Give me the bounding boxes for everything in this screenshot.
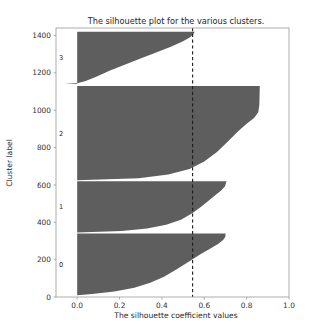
x-axis-ticks: 0.00.20.40.60.81.0	[71, 297, 295, 310]
x-tick-label: 0.2	[114, 301, 126, 310]
y-axis-label: Cluster label	[5, 139, 14, 187]
y-tick-label: 400	[37, 218, 51, 227]
y-tick-label: 1200	[32, 68, 51, 77]
x-axis-label: The silhouette coefficient values	[113, 311, 237, 320]
cluster-label-2: 2	[59, 130, 63, 138]
y-tick-label: 1000	[32, 106, 51, 115]
x-tick-label: 0.8	[241, 301, 253, 310]
y-tick-label: 800	[37, 143, 51, 152]
x-tick-label: 0.4	[156, 301, 168, 310]
y-axis-ticks: 0200400600800100012001400	[32, 31, 56, 302]
page-title: The silhouette plot for the various clus…	[87, 16, 265, 26]
silhouette-plot-figure: The silhouette plot for the various clus…	[0, 0, 316, 333]
cluster-label-0: 0	[59, 261, 63, 269]
cluster-label-3: 3	[59, 54, 63, 62]
y-tick-label: 600	[37, 181, 51, 190]
x-tick-label: 0.6	[198, 301, 210, 310]
x-tick-label: 0.0	[71, 301, 83, 310]
y-tick-label: 0	[46, 293, 51, 302]
cluster-label-1: 1	[59, 203, 63, 211]
plot-canvas: The silhouette plot for the various clus…	[0, 0, 316, 333]
y-tick-label: 200	[37, 255, 51, 264]
x-tick-label: 1.0	[283, 301, 295, 310]
y-tick-label: 1400	[32, 31, 51, 40]
